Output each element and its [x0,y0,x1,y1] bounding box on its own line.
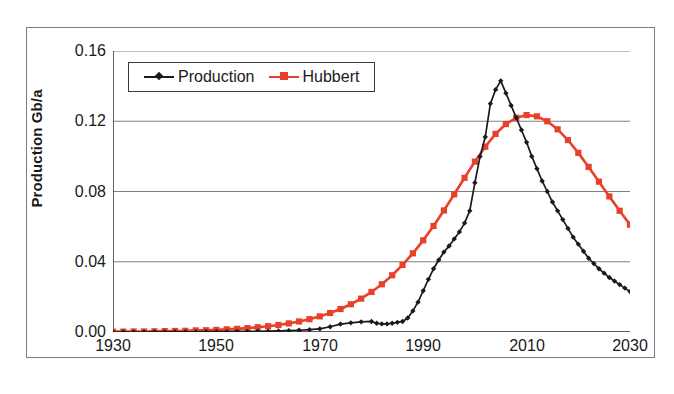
series-hubbert [113,112,630,332]
x-tick-label-2010: 2010 [492,338,562,354]
chart-canvas [113,51,630,332]
y-axis-tick-labels: 0.16 0.12 0.08 0.04 0.00 [48,51,106,332]
x-axis-tick-labels: 1930 1950 1970 1990 2010 2030 [113,338,630,362]
square-marker-icon [280,72,288,80]
legend-swatch-production [144,71,174,83]
legend-label-production: Production [178,68,255,86]
legend-label-hubbert: Hubbert [303,68,360,86]
x-tick-label-1950: 1950 [181,338,251,354]
y-tick-label-016: 0.16 [58,43,106,59]
y-tick-label-012: 0.12 [58,113,106,129]
y-tick-label-004: 0.04 [58,254,106,270]
legend-entry-hubbert[interactable]: Hubbert [269,68,360,86]
diamond-marker-icon [155,72,163,80]
legend-swatch-hubbert [269,71,299,83]
x-tick-label-1990: 1990 [388,338,458,354]
y-axis-title: Production Gb/a [28,49,45,249]
x-tick-label-1930: 1930 [78,338,148,354]
y-tick-label-008: 0.08 [58,184,106,200]
chart-legend[interactable]: Production Hubbert [128,62,375,92]
chart-figure: Production Gb/a 0.16 0.12 0.08 0.04 0.00… [0,0,674,394]
x-tick-label-2030: 2030 [595,338,665,354]
legend-entry-production[interactable]: Production [144,68,255,86]
plot-area [113,51,630,332]
x-tick-label-1970: 1970 [285,338,355,354]
